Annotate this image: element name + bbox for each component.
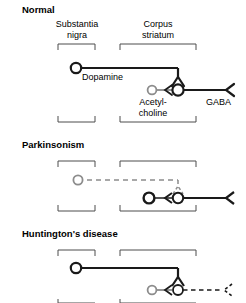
neuron-label-acetylcholine-line1: Acetyl-: [131, 97, 175, 108]
bracket-corpus-striatum-top-parkinsonism: [120, 161, 196, 167]
panel-huntingtons: [58, 250, 232, 303]
region-label-corpus-striatum-line1: Corpus: [136, 19, 180, 30]
dopamine-soma-degenerated: [73, 175, 82, 184]
diagram-svg: [0, 0, 246, 303]
region-label-substantia-nigra-line2: nigra: [55, 30, 99, 41]
bracket-corpus-striatum-top-huntingtons: [120, 250, 196, 256]
bracket-substantia-nigra-top-huntingtons: [58, 250, 95, 256]
bracket-substantia-nigra-bottom-parkinsonism: [58, 205, 95, 211]
panel-title-huntingtons: Huntington's disease: [22, 228, 118, 239]
bracket-substantia-nigra-top-parkinsonism: [58, 161, 95, 167]
bracket-corpus-striatum-bottom-parkinsonism: [120, 205, 196, 211]
bracket-corpus-striatum-bottom-huntingtons: [120, 299, 196, 303]
region-label-substantia-nigra-line1: Substantia: [55, 19, 99, 30]
region-label-corpus-striatum-line2: striatum: [136, 30, 180, 41]
figure-canvas: Normal Substantia nigra Corpus striatum …: [0, 0, 246, 303]
dopamine-soma: [71, 63, 81, 73]
acetylcholine-soma-huntingtons: [148, 286, 157, 295]
bracket-corpus-striatum-top: [120, 44, 196, 50]
bracket-substantia-nigra-bottom: [58, 116, 95, 122]
panel-parkinsonism: [58, 161, 234, 211]
neuron-label-dopamine: Dopamine: [82, 72, 123, 82]
panel-title-normal: Normal: [22, 4, 55, 15]
bracket-substantia-nigra-bottom-huntingtons: [58, 299, 95, 303]
gaba-terminal-icon-parkinsonism: [226, 192, 234, 204]
gaba-soma-parkinsonism: [173, 193, 183, 203]
acetylcholine-soma-overactive: [144, 193, 155, 204]
bracket-substantia-nigra-top: [58, 44, 95, 50]
neuron-label-acetylcholine-line2: choline: [131, 108, 175, 119]
panel-title-parkinsonism: Parkinsonism: [22, 139, 84, 150]
acetylcholine-soma: [148, 86, 157, 95]
gaba-soma: [172, 84, 183, 95]
gaba-terminal-icon-degenerated: [224, 284, 232, 296]
gaba-terminal-icon: [226, 84, 234, 96]
dopamine-soma-huntingtons: [71, 263, 81, 273]
gaba-soma-degenerated: [173, 285, 183, 295]
neuron-label-gaba: GABA: [206, 97, 231, 107]
